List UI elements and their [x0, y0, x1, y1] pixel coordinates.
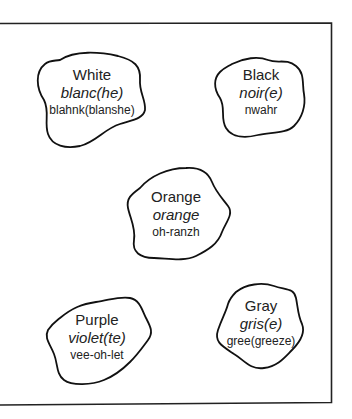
pronunciation: nwahr: [216, 102, 306, 119]
french-word: orange: [131, 206, 221, 224]
french-word: noir(e): [216, 84, 306, 102]
card-purple: Purple violet(te) vee-oh-let: [52, 311, 142, 364]
pronunciation: gree(greeze): [216, 333, 306, 350]
english-word: Gray: [216, 297, 306, 315]
french-word: blanc(he): [47, 84, 137, 102]
french-word: gris(e): [216, 315, 306, 333]
english-word: Black: [216, 66, 306, 84]
pronunciation: vee-oh-let: [52, 347, 142, 364]
vocabulary-panel: White blanc(he) blahnk(blanshe) Black no…: [0, 0, 352, 419]
french-word: violet(te): [52, 329, 142, 347]
card-gray: Gray gris(e) gree(greeze): [216, 297, 306, 350]
english-word: Orange: [131, 188, 221, 206]
card-white: White blanc(he) blahnk(blanshe): [47, 66, 137, 119]
card-orange: Orange orange oh-ranzh: [131, 188, 221, 241]
pronunciation: blahnk(blanshe): [47, 102, 137, 119]
english-word: White: [47, 66, 137, 84]
english-word: Purple: [52, 311, 142, 329]
pronunciation: oh-ranzh: [131, 224, 221, 241]
card-black: Black noir(e) nwahr: [216, 66, 306, 119]
